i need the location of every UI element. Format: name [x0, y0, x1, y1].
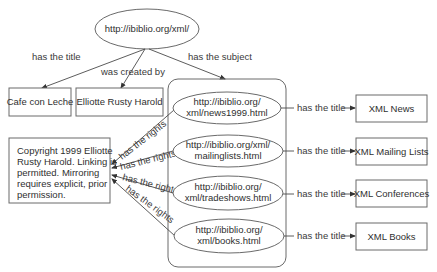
rights-line-5: permission. — [17, 189, 66, 200]
title-box-label: XML Books — [367, 231, 415, 242]
title-node-label: Cafe con Leche — [7, 96, 74, 107]
subject-url-line2: xml/books.html — [197, 235, 260, 246]
rights-line-1: Copyright 1999 Elliotte — [17, 145, 113, 156]
subject-url-line2: xml/news1999.html — [186, 107, 267, 118]
subject-node-tradeshows: http://ibiblio.org/ xml/tradeshows.html — [173, 176, 283, 210]
rights-line-3: permitted. Mirroring — [17, 167, 99, 178]
creator-node: Elliotte Rusty Harold — [76, 88, 163, 116]
edge-label-title-news: has the title — [297, 102, 346, 113]
title-box-mailinglists: XML Mailing Lists — [354, 138, 428, 165]
subject-node-mailinglists: http://ibiblio.org/xml/ mailinglists.htm… — [173, 135, 283, 167]
title-box-books: XML Books — [356, 223, 427, 250]
rights-line-4: requires explicit, prior — [17, 178, 107, 189]
subject-node-news: http://ibiblio.org/ xml/news1999.html — [173, 92, 281, 124]
root-node: http://ibiblio.org/xml/ — [95, 9, 199, 49]
edge-label-has-subject: has the subject — [188, 51, 252, 62]
title-node: Cafe con Leche — [7, 88, 74, 116]
subject-url-line1: http://ibiblio.org/ — [195, 224, 262, 235]
subject-url-line1: http://ibiblio.org/ — [194, 181, 261, 192]
creator-node-label: Elliotte Rusty Harold — [76, 96, 162, 107]
edge-label-title-books: has the title — [297, 230, 346, 241]
title-box-label: XML Conferences — [354, 188, 430, 199]
edge-label-title-conf: has the title — [297, 188, 346, 199]
rdf-diagram: http://ibiblio.org/xml/ has the title wa… — [0, 0, 437, 272]
subject-node-books: http://ibiblio.org/ xml/books.html — [174, 219, 284, 253]
subject-url-line2: mailinglists.html — [194, 150, 261, 161]
subject-url-line2: xml/tradeshows.html — [185, 192, 272, 203]
edge-label-has-title: has the title — [32, 51, 81, 62]
title-box-news: XML News — [356, 95, 427, 122]
title-box-conferences: XML Conferences — [354, 180, 430, 207]
title-box-label: XML News — [369, 103, 415, 114]
rights-node: Copyright 1999 Elliotte Rusty Harold. Li… — [9, 138, 117, 203]
title-box-label: XML Mailing Lists — [354, 146, 428, 157]
rights-line-2: Rusty Harold. Linking is — [17, 156, 117, 167]
subject-url-line1: http://ibiblio.org/xml/ — [186, 139, 271, 150]
edge-label-title-mailing: has the title — [297, 145, 346, 156]
root-node-label: http://ibiblio.org/xml/ — [105, 23, 190, 34]
subject-url-line1: http://ibiblio.org/ — [193, 96, 260, 107]
edge-label-was-created-by: was created by — [100, 66, 165, 77]
